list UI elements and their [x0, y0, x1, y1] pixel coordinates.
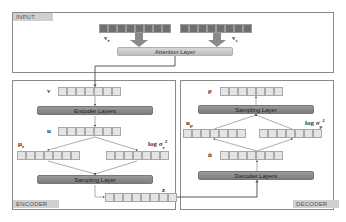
input-arrows [130, 33, 226, 47]
connector-lines [0, 0, 346, 222]
